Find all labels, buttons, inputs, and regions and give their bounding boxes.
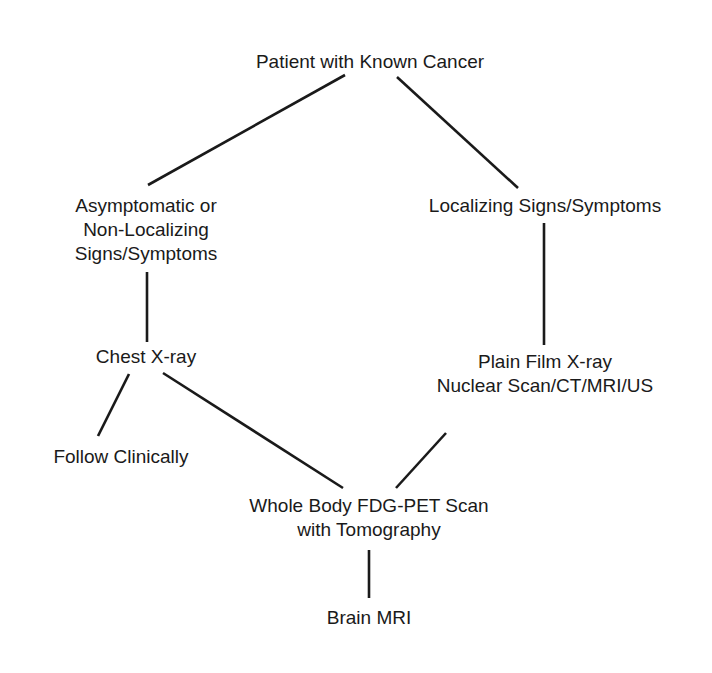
node-asymptomatic-line-1: Asymptomatic or: [75, 194, 218, 218]
edge-patient-localizing: [397, 77, 518, 188]
node-plain-film-line-1: Plain Film X-ray: [437, 350, 653, 374]
node-pet-line-2: with Tomography: [249, 518, 488, 542]
node-asymptomatic: Asymptomatic or Non-Localizing Signs/Sym…: [75, 194, 218, 266]
node-follow: Follow Clinically: [53, 445, 188, 469]
node-asymptomatic-line-3: Signs/Symptoms: [75, 242, 218, 266]
node-chest-xray-line-1: Chest X-ray: [96, 345, 196, 369]
node-localizing: Localizing Signs/Symptoms: [429, 194, 661, 218]
node-pet-line-1: Whole Body FDG-PET Scan: [249, 494, 488, 518]
node-plain-film-line-2: Nuclear Scan/CT/MRI/US: [437, 374, 653, 398]
edge-chest-xray-pet: [163, 373, 343, 488]
node-patient: Patient with Known Cancer: [256, 50, 484, 74]
edge-chest-xray-follow: [98, 374, 129, 436]
edges: [0, 0, 712, 673]
node-plain-film: Plain Film X-ray Nuclear Scan/CT/MRI/US: [437, 350, 653, 398]
edge-plain-film-pet: [396, 433, 446, 488]
node-brain: Brain MRI: [327, 606, 411, 630]
node-chest-xray: Chest X-ray: [96, 345, 196, 369]
node-asymptomatic-line-2: Non-Localizing: [75, 218, 218, 242]
node-brain-line-1: Brain MRI: [327, 606, 411, 630]
node-follow-line-1: Follow Clinically: [53, 445, 188, 469]
node-patient-line-1: Patient with Known Cancer: [256, 50, 484, 74]
node-localizing-line-1: Localizing Signs/Symptoms: [429, 194, 661, 218]
edge-patient-asymptomatic: [148, 75, 345, 185]
node-pet: Whole Body FDG-PET Scan with Tomography: [249, 494, 488, 542]
